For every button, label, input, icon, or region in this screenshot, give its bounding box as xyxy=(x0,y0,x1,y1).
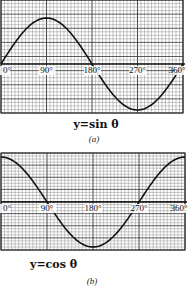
grid xyxy=(1,0,183,113)
chart-cosine: 0°90°180°270°360°y=cos θ(b) xyxy=(0,153,192,286)
tick-label: 180° xyxy=(83,65,101,75)
tick-label: 90° xyxy=(41,203,54,213)
tick-label: 270° xyxy=(130,203,148,213)
tick-label: 0° xyxy=(3,65,12,75)
equation-label: y=sin θ xyxy=(72,118,118,131)
figure-caption: (a) xyxy=(89,134,100,144)
figure: 0°90°180°270°360°y=sin θ(a)0°90°180°270°… xyxy=(0,0,192,291)
tick-label: 0° xyxy=(3,203,12,213)
tick-label: 360° xyxy=(170,203,188,213)
tick-label: 180° xyxy=(84,203,102,213)
tick-label: 270° xyxy=(129,65,147,75)
figure-caption: (b) xyxy=(87,276,98,286)
tick-label: 90° xyxy=(40,65,53,75)
chart-sine: 0°90°180°270°360°y=sin θ(a) xyxy=(0,0,192,144)
tick-label: 360° xyxy=(168,65,186,75)
equation-label: y=cos θ xyxy=(29,258,77,271)
